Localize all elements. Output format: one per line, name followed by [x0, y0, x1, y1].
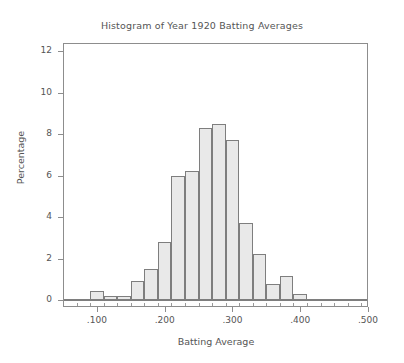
x-tick-minor-mark [293, 303, 294, 306]
axis-ticks: 024681012.100.200.300.400.500 [0, 0, 404, 363]
x-tick-minor-mark [77, 303, 78, 306]
x-tick-minor-mark [212, 303, 213, 306]
y-tick-mark [58, 93, 63, 94]
x-tick-minor-mark [280, 303, 281, 306]
x-tick-minor-mark [171, 303, 172, 306]
y-tick-label: 0 [26, 294, 52, 304]
x-axis-title: Batting Average [63, 336, 369, 347]
x-tick-minor-mark [158, 303, 159, 306]
y-tick-label: 2 [26, 253, 52, 263]
y-tick-label: 8 [26, 128, 52, 138]
y-tick-mark [58, 217, 63, 218]
y-tick-label: 4 [26, 211, 52, 221]
x-tick-label: .300 [212, 315, 252, 325]
x-tick-mark [368, 307, 369, 312]
x-tick-minor-mark [131, 303, 132, 306]
x-tick-minor-mark [361, 303, 362, 306]
y-tick-label: 12 [26, 45, 52, 55]
y-tick-label: 10 [26, 87, 52, 97]
x-tick-minor-mark [348, 303, 349, 306]
y-tick-mark [58, 176, 63, 177]
x-tick-minor-mark [117, 303, 118, 306]
x-tick-minor-mark [307, 303, 308, 306]
x-tick-mark [165, 307, 166, 312]
x-tick-minor-mark [239, 303, 240, 306]
x-tick-minor-mark [334, 303, 335, 306]
histogram-figure: Histogram of Year 1920 Batting Averages … [0, 0, 404, 363]
x-tick-minor-mark [185, 303, 186, 306]
y-tick-mark [58, 300, 63, 301]
x-tick-mark [97, 307, 98, 312]
x-tick-label: .100 [77, 315, 117, 325]
x-tick-label: .200 [145, 315, 185, 325]
x-tick-label: .400 [280, 315, 320, 325]
x-tick-minor-mark [321, 303, 322, 306]
x-tick-mark [300, 307, 301, 312]
x-tick-minor-mark [90, 303, 91, 306]
y-tick-label: 6 [26, 170, 52, 180]
x-tick-minor-mark [253, 303, 254, 306]
x-tick-minor-mark [144, 303, 145, 306]
x-tick-mark [232, 307, 233, 312]
y-tick-mark [58, 134, 63, 135]
y-tick-mark [58, 51, 63, 52]
y-tick-mark [58, 259, 63, 260]
x-tick-minor-mark [104, 303, 105, 306]
x-tick-label: .500 [348, 315, 388, 325]
x-tick-minor-mark [199, 303, 200, 306]
x-tick-minor-mark [266, 303, 267, 306]
x-tick-minor-mark [226, 303, 227, 306]
